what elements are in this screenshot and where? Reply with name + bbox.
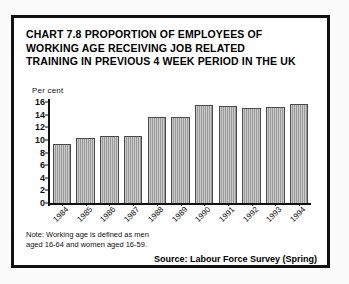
bar <box>266 107 285 203</box>
chart-note: Note: Working age is defined as men aged… <box>26 230 241 250</box>
y-axis-label: Per cent <box>32 86 63 95</box>
x-tick-label: 1989 <box>161 205 189 233</box>
x-tick-label: 1985 <box>66 205 94 233</box>
bar <box>100 136 119 203</box>
bar <box>76 138 95 203</box>
chart-note-line-2: aged 16-64 and women aged 16-59. <box>26 240 241 250</box>
x-tick-label: 1987 <box>114 205 142 233</box>
x-tick-label: 1988 <box>138 205 166 233</box>
bar <box>148 117 167 203</box>
bar <box>219 106 238 203</box>
y-tick-label: 14 <box>35 110 45 120</box>
y-tick-label: 12 <box>35 122 45 132</box>
x-tick-label: 1990 <box>185 205 213 233</box>
y-tick-mark <box>45 152 48 153</box>
x-tick-label: 1991 <box>209 205 237 233</box>
bar <box>124 136 143 203</box>
y-tick-mark <box>45 203 48 204</box>
chart-figure: CHART 7.8 PROPORTION OF EMPLOYEES OF WOR… <box>0 0 349 284</box>
bar <box>290 104 309 203</box>
chart-title: CHART 7.8 PROPORTION OF EMPLOYEES OF WOR… <box>26 28 318 69</box>
bar <box>171 117 190 203</box>
bar <box>195 105 214 203</box>
y-tick-label: 16 <box>35 97 45 107</box>
chart-note-line-1: Note: Working age is defined as men <box>26 230 241 240</box>
x-tick-label: 1993 <box>256 205 284 233</box>
y-tick-mark <box>45 102 48 103</box>
chart-frame: CHART 7.8 PROPORTION OF EMPLOYEES OF WOR… <box>11 15 330 268</box>
bar <box>53 144 72 203</box>
chart-title-line-3: TRAINING IN PREVIOUS 4 WEEK PERIOD IN TH… <box>26 55 318 69</box>
x-tick-label: 1986 <box>90 205 118 233</box>
y-tick-mark <box>45 114 48 115</box>
y-tick-mark <box>45 177 48 178</box>
x-tick-label: 1992 <box>232 205 260 233</box>
y-tick-mark <box>45 139 48 140</box>
bar-series <box>50 102 311 203</box>
x-tick-label: 1994 <box>280 205 308 233</box>
x-tick-label: 1984 <box>43 205 71 233</box>
chart-source: Source: Labour Force Survey (Spring) <box>154 254 317 264</box>
chart-title-line-1: CHART 7.8 PROPORTION OF EMPLOYEES OF <box>26 28 318 42</box>
plot-area: 0246810121416 19841985198619871988198919… <box>48 102 311 203</box>
y-tick-mark <box>45 190 48 191</box>
y-tick-label: 10 <box>35 135 45 145</box>
y-tick-mark <box>45 127 48 128</box>
chart-title-line-2: WORKING AGE RECEIVING JOB RELATED <box>26 42 318 56</box>
y-tick-mark <box>45 165 48 166</box>
bar <box>242 108 261 203</box>
